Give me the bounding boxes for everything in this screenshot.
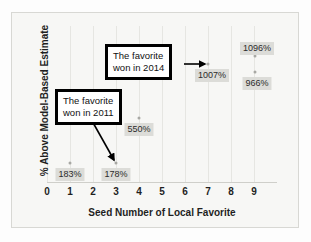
gridline-vertical bbox=[208, 26, 209, 182]
x-tick-0: 0 bbox=[44, 186, 50, 197]
gridline-vertical bbox=[231, 26, 232, 182]
data-label-1007: 1007% bbox=[195, 69, 229, 82]
callout-won-in-2011: The favorite won in 2011 bbox=[55, 89, 122, 125]
gridline-vertical bbox=[185, 26, 186, 182]
callout-won-in-2014: The favorite won in 2014 bbox=[105, 44, 172, 80]
data-label-183: 183% bbox=[55, 168, 84, 181]
callout-2011-line2: won in 2011 bbox=[63, 107, 114, 119]
data-point-marker bbox=[254, 71, 257, 74]
data-point-marker bbox=[207, 63, 210, 66]
data-label-178: 178% bbox=[101, 168, 130, 181]
data-point-marker bbox=[69, 162, 72, 165]
data-label-1096: 1096% bbox=[240, 42, 274, 55]
x-tick-4: 4 bbox=[136, 186, 142, 197]
callout-2011-line1: The favorite bbox=[63, 95, 114, 107]
x-tick-5: 5 bbox=[159, 186, 165, 197]
data-point-marker bbox=[115, 162, 118, 165]
x-tick-7: 7 bbox=[205, 186, 211, 197]
data-label-550: 550% bbox=[124, 123, 153, 136]
y-axis-label: % Above Model-Based Estimate bbox=[39, 16, 50, 186]
x-tick-2: 2 bbox=[90, 186, 96, 197]
x-tick-8: 8 bbox=[228, 186, 234, 197]
x-tick-1: 1 bbox=[67, 186, 73, 197]
x-tick-9: 9 bbox=[251, 186, 257, 197]
x-tick-6: 6 bbox=[182, 186, 188, 197]
data-label-966: 966% bbox=[242, 77, 271, 90]
callout-2014-line2: won in 2014 bbox=[113, 62, 164, 74]
chart-figure: 183% 178% 550% 1007% 1096% 966% The favo… bbox=[0, 0, 311, 242]
x-axis-line bbox=[47, 182, 277, 183]
x-tick-3: 3 bbox=[113, 186, 119, 197]
data-point-marker bbox=[138, 117, 141, 120]
callout-2014-line1: The favorite bbox=[113, 50, 164, 62]
x-axis-label: Seed Number of Local Favorite bbox=[47, 207, 277, 218]
